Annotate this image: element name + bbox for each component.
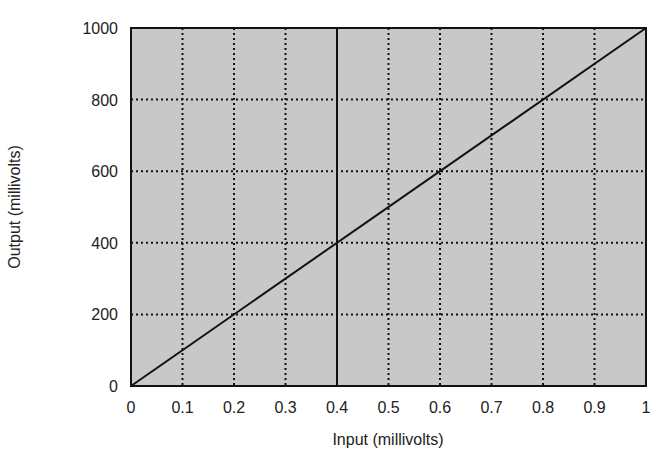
y-tick-label: 200 — [91, 306, 118, 323]
x-tick-label: 0.4 — [326, 399, 348, 416]
x-tick-label: 0.9 — [583, 399, 605, 416]
x-tick-label: 0.5 — [377, 399, 399, 416]
x-tick-label: 0.7 — [480, 399, 502, 416]
y-tick-label: 0 — [109, 378, 118, 395]
x-tick-label: 0.2 — [223, 399, 245, 416]
x-axis-ticks: 00.10.20.30.40.50.60.70.80.91 — [127, 399, 651, 416]
x-tick-label: 0 — [127, 399, 136, 416]
chart: 00.10.20.30.40.50.60.70.80.91 0200400600… — [0, 0, 662, 461]
y-tick-label: 1000 — [82, 20, 118, 37]
x-tick-label: 0.8 — [532, 399, 554, 416]
x-tick-label: 1 — [642, 399, 651, 416]
x-tick-label: 0.6 — [429, 399, 451, 416]
x-axis-label: Input (millivolts) — [332, 431, 443, 448]
x-tick-label: 0.3 — [274, 399, 296, 416]
x-tick-label: 0.1 — [171, 399, 193, 416]
y-axis-label: Output (millivolts) — [6, 145, 23, 269]
y-tick-label: 600 — [91, 163, 118, 180]
y-axis-ticks: 02004006008001000 — [82, 20, 118, 395]
y-tick-label: 400 — [91, 235, 118, 252]
y-tick-label: 800 — [91, 92, 118, 109]
